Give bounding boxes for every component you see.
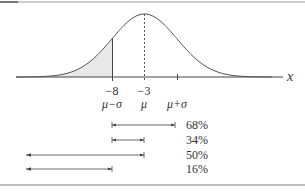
x-axis-label: x xyxy=(286,69,294,84)
interval-label-50: 50% xyxy=(186,148,208,162)
interval-50 xyxy=(26,152,144,158)
interval-label-16: 16% xyxy=(186,162,208,176)
interval-label-34: 34% xyxy=(186,133,208,147)
tick-label-minus-8: −8 xyxy=(106,84,119,98)
tick-label-minus-3: −3 xyxy=(138,84,151,98)
symbol-mu-plus-sigma: μ+σ xyxy=(166,97,188,111)
shaded-tail-region xyxy=(16,39,112,77)
interval-68 xyxy=(112,122,175,128)
symbol-mu: μ xyxy=(140,97,147,111)
interval-16 xyxy=(26,166,112,172)
interval-34 xyxy=(112,137,144,143)
interval-label-68: 68% xyxy=(186,118,208,132)
symbol-mu-minus-sigma: μ−σ xyxy=(101,97,123,111)
normal-distribution-figure: x −8 −3 μ−σ μ μ+σ xyxy=(0,0,305,191)
